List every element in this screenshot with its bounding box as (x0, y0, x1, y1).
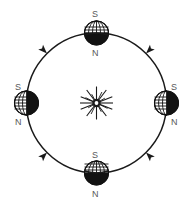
earth-bottom-south-label: S (92, 151, 98, 160)
arrow-bottom-left-icon (38, 150, 49, 161)
arrow-top-left-icon (38, 45, 49, 56)
earth-bottom-north-label: N (92, 190, 99, 199)
earth-right-north-label: N (171, 118, 178, 127)
earth-globe-left (15, 91, 39, 115)
earth-globe-right (155, 91, 179, 115)
arrow-bottom-right-icon (144, 150, 155, 161)
sun-icon (80, 87, 113, 120)
orbit-diagram-canvas (0, 0, 193, 206)
earth-left-south-label: S (15, 83, 21, 92)
arrow-top-right-icon (144, 45, 155, 56)
earth-left-north-label: N (15, 118, 22, 127)
earth-right-south-label: S (171, 83, 177, 92)
earth-top-south-label: S (92, 10, 98, 19)
earth-orbit-diagram: S N S N S N S N (0, 0, 193, 206)
earth-top-north-label: N (92, 49, 99, 58)
